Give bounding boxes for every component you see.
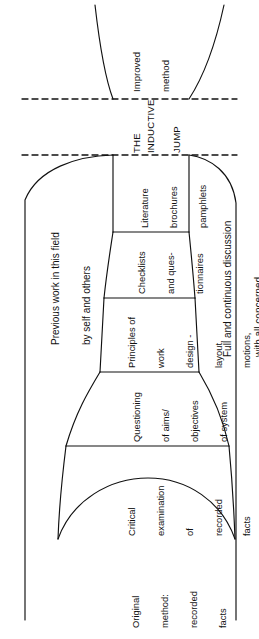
label-improved-method: Improved method <box>112 52 190 92</box>
questioning-left-wall <box>66 372 100 446</box>
stage-original-method: Original method: recorded facts <box>112 591 246 628</box>
stage-checklists: Checklists and ques- tionnaires <box>118 251 224 294</box>
flare-right-curve <box>189 5 224 99</box>
outer-envelope-left <box>25 155 113 620</box>
flare-left-curve <box>95 5 113 99</box>
stage-critical-examination: Critical examination of recorded facts <box>108 485 259 536</box>
method-improvement-diagram: Improved method THE INDUCTIVE JUMP Previ… <box>0 0 259 639</box>
label-jump-word-jump: JUMP <box>152 126 201 153</box>
stage-literature: Literature brochures pamphlets <box>121 185 227 228</box>
label-previous-work: Previous work in this field by self and … <box>31 232 113 345</box>
stage-questioning-aims: Questioning of aims/ objectives of syste… <box>113 392 247 442</box>
stage-principles-of-work-design: Principles of work design - layout, moti… <box>108 316 259 368</box>
